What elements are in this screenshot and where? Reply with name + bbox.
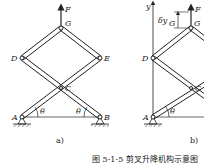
bar-GD (21, 26, 62, 60)
label-theta-b: θ (170, 107, 175, 116)
label-D-b: D (141, 54, 149, 63)
scissor-lift-diagram: F G D E C A B θ θ a) y (0, 0, 204, 163)
pin-D (20, 56, 24, 60)
pin-G-b (189, 26, 193, 30)
virtual-displacement-dimension (174, 12, 189, 28)
label-delta-y: δy (158, 16, 168, 25)
label-theta-B: θ (76, 107, 81, 116)
label-C-b: C (195, 84, 201, 93)
pin-E (98, 56, 102, 60)
pin-B (98, 115, 102, 119)
label-A: A (11, 113, 18, 122)
label-G: G (65, 19, 72, 28)
pin-G (59, 26, 63, 30)
figure-caption: 图 5-1-5 剪叉升降机构示意图 (92, 154, 198, 163)
pin-D-b (151, 56, 155, 60)
panel-a-label: a) (56, 136, 64, 145)
label-A-b: A (142, 113, 149, 122)
label-C: C (65, 84, 71, 93)
label-theta-A: θ (40, 107, 45, 116)
pin-A (20, 115, 24, 119)
label-D: D (10, 54, 18, 63)
bar-GE (60, 26, 101, 60)
bar-GD-b (152, 26, 192, 60)
label-E: E (103, 54, 110, 63)
bar-DB-b (152, 56, 204, 100)
panel-b-label: b) (190, 136, 198, 145)
panel-a: F G D E C A B θ θ a) (10, 5, 110, 145)
label-y-axis: y (145, 2, 151, 11)
label-delta-y-sub: G (169, 19, 176, 28)
panel-b: y (141, 2, 204, 145)
label-B: B (103, 113, 110, 122)
pin-C (60, 87, 63, 90)
pin-C-b (190, 87, 193, 90)
label-F: F (64, 5, 71, 14)
pin-A-b (151, 115, 155, 119)
angle-arc-A-b (166, 107, 169, 117)
label-F-b: F (194, 5, 201, 14)
label-G-b: G (194, 19, 201, 28)
